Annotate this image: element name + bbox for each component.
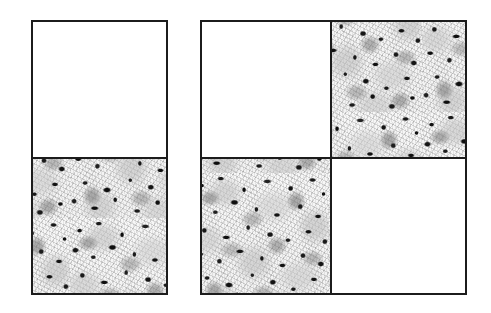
left-panel-horizontal-divider [33,157,166,159]
diagram-canvas [0,0,491,313]
right-panel-bottom-left-cell [202,159,330,293]
left-panel [31,20,168,295]
right-panel-bottom-right-cell [332,159,465,293]
left-panel-top-cell [33,22,166,157]
right-panel-vertical-divider [330,22,332,293]
left-panel-bottom-cell [33,157,166,293]
right-panel [200,20,467,295]
right-panel-top-left-cell [202,22,330,157]
right-panel-horizontal-divider [202,157,465,159]
right-panel-top-right-cell [332,22,465,157]
